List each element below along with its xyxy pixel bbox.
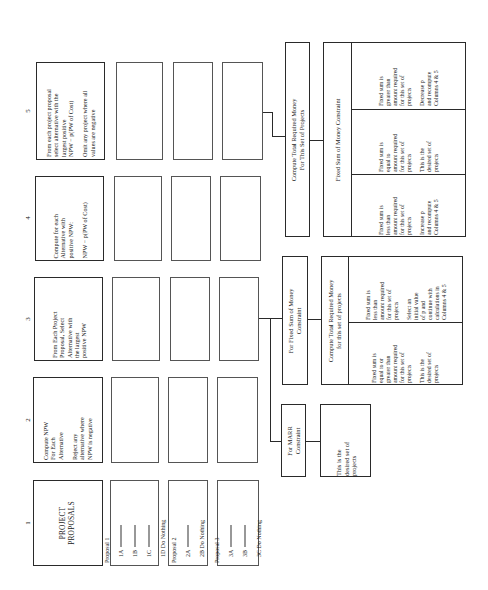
- fixed-sum-constraint-label: For Fixed Sum of Money Constraint: [287, 258, 302, 383]
- alternative-3b: 3B: [242, 483, 249, 563]
- column-number-2: 2: [24, 418, 32, 422]
- connector-compute-to-table: [310, 140, 323, 141]
- column-4-proposal-2-box: [171, 176, 211, 261]
- column-3-proposal-1-box: [112, 277, 160, 361]
- project-proposals-title: PROJECT PROPOSALS: [59, 501, 77, 545]
- proposal-3-box: Proposal 3 3A 3B 3C Do Nothing: [217, 480, 259, 566]
- connector-marr-to-result: [306, 441, 320, 442]
- fixed-sum-constraint-box: For Fixed Sum of Money Constraint: [282, 256, 308, 385]
- fixed-sum-table-header-text: Compute Total Required Money for this se…: [327, 258, 342, 383]
- column-5-proposal-1-box: [116, 62, 163, 160]
- column-4-proposal-1-box: [114, 176, 162, 261]
- fixed-sum-table-cell-equal-or-greater: Fixed sum is equal to or greater than am…: [349, 322, 462, 384]
- column-4-proposal-3-box: [220, 176, 261, 261]
- proposal-1-content: Proposal 1 1A 1B 1C 1D Do Nothing: [96, 483, 173, 563]
- alternative-1a: 1A: [117, 483, 124, 563]
- compute-total-required-money-box: Compute Total Required Money For This Se…: [285, 42, 310, 237]
- column-number-5: 5: [24, 109, 32, 113]
- column-2-header-box: Compute NPW For Each Alternative Reject …: [33, 377, 103, 463]
- connector-col3-vertical: [270, 318, 271, 442]
- compute-total-required-money-label: Compute Total Required Money For This Se…: [290, 45, 305, 235]
- marr-result-box: This is the desired set of projects: [320, 404, 371, 477]
- alternative-1c: 1C: [145, 483, 152, 563]
- proposal-1-title: Proposal 1: [103, 483, 110, 563]
- column-3-proposal-3-box: [219, 277, 259, 361]
- constraint-cell-less-than-text: Fixed sum is less than amount required f…: [377, 177, 439, 235]
- constraint-cell-equal: Fixed sum is equal to amount required fo…: [352, 109, 465, 174]
- constraint-cell-greater-than-text: Fixed sum is greater than amount require…: [377, 46, 439, 106]
- column-3-header-box: From Each Project Proposal, Select Alter…: [34, 277, 103, 361]
- connector-col5-to-compute: [272, 136, 285, 137]
- marr-constraint-box: For MARR Constraint: [281, 404, 306, 477]
- column-3-proposal-2-box: [170, 277, 210, 361]
- proposal-1-box: Proposal 1 1A 1B 1C 1D Do Nothing: [110, 480, 159, 566]
- column-2-proposal-1-box: [111, 377, 159, 463]
- column-5-proposal-2-box: [173, 62, 213, 160]
- fixed-sum-cell-1-text: Fixed sum is equal to or greater than am…: [371, 325, 440, 383]
- column-5-proposal-3-box: [222, 62, 263, 160]
- column-3-header-text: From Each Project Proposal, Select Alter…: [50, 280, 86, 358]
- column-number-4: 4: [24, 216, 32, 220]
- constraint-cell-less-than: Fixed sum is less than amount required f…: [352, 174, 465, 236]
- proposal-3-content: Proposal 3 3A 3B 3C Do Nothing: [207, 483, 270, 563]
- fixed-sum-cell-2-text: Fixed sum is less than amount required f…: [364, 260, 447, 320]
- connector-col5-vertical: [272, 112, 273, 137]
- proposal-2-content: Proposal 2 2A 2B Do Nothing: [164, 483, 213, 563]
- proposal-3-title: Proposal 3: [214, 483, 221, 563]
- fixed-sum-table: Compute Total Required Money for this se…: [321, 256, 463, 385]
- column-5-header-text: From each project proposal select altern…: [45, 65, 96, 157]
- column-number-1: 1: [24, 521, 32, 525]
- marr-result-text: This is the desired set of projects: [334, 406, 357, 476]
- column-number-3: 3: [24, 317, 32, 321]
- alternative-3c-do-nothing: 3C Do Nothing: [256, 483, 263, 563]
- fixed-sum-money-constraint-header: Fixed Sum of Money Constraint: [324, 43, 352, 236]
- column-5-header-box: From each project proposal select altern…: [36, 62, 105, 160]
- connector-fixedsum-to-table: [308, 319, 321, 320]
- fixed-sum-table-header: Compute Total Required Money for this se…: [322, 257, 349, 384]
- alternative-1b: 1B: [131, 483, 138, 563]
- constraint-cell-greater-than: Fixed sum is greater than amount require…: [352, 43, 465, 109]
- column-2-proposal-2-box: [168, 377, 208, 463]
- marr-constraint-label: For MARR Constraint: [286, 406, 301, 476]
- connector-to-marr: [270, 441, 281, 442]
- column-4-header-text: Compute for each Alternative with positi…: [51, 179, 87, 258]
- column-2-proposal-3-box: [217, 377, 258, 463]
- alternative-2b-do-nothing: 2B Do Nothing: [199, 483, 206, 563]
- column-1-header-box: PROJECT PROPOSALS: [33, 480, 103, 566]
- fixed-sum-money-constraint-table: Fixed Sum of Money Constraint Fixed sum …: [323, 42, 466, 237]
- column-4-header-box: Compute for each Alternative with positi…: [35, 176, 104, 261]
- fixed-sum-table-cell-less: Fixed sum is less than amount required f…: [349, 257, 462, 322]
- constraint-cell-equal-text: Fixed sum is equal to amount required fo…: [377, 112, 439, 172]
- alternative-2a: 2A: [185, 483, 192, 563]
- fixed-sum-money-constraint-header-text: Fixed Sum of Money Constraint: [334, 45, 342, 235]
- column-2-header-text: Compute NPW For Each Alternative Reject …: [42, 380, 93, 460]
- proposal-2-box: Proposal 2 2A 2B Do Nothing: [168, 480, 208, 566]
- alternative-3a: 3A: [228, 483, 235, 563]
- proposal-2-title: Proposal 2: [171, 483, 178, 563]
